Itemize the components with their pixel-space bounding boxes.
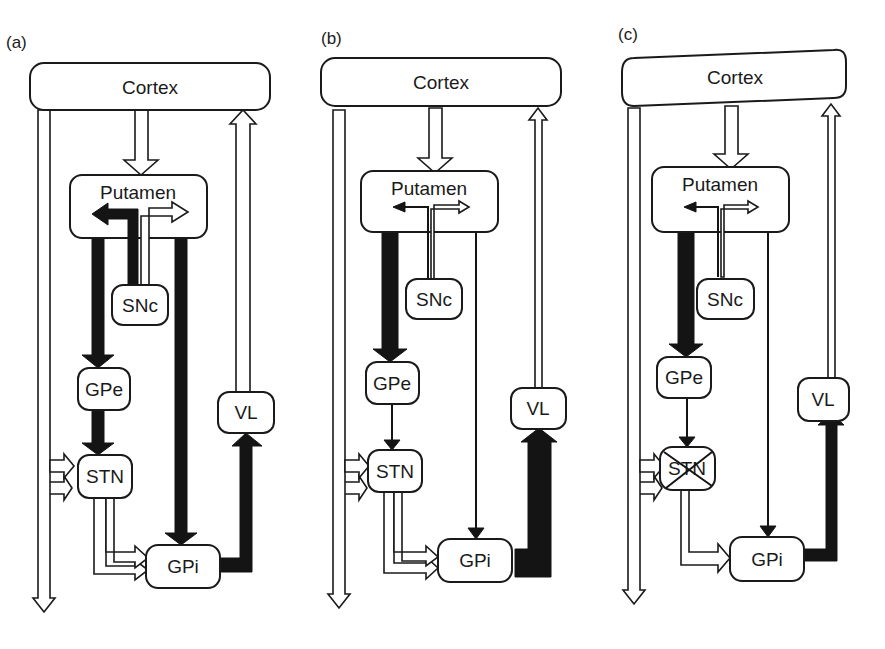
gpe-stn-arrow — [82, 410, 114, 455]
putamen-gpe-arrow — [373, 232, 407, 362]
gpi-label: GPi — [751, 549, 783, 570]
panel-a: (a) Putamen Cortex SNc GP — [6, 33, 274, 612]
gpi-vl-arrow — [220, 433, 262, 572]
stn-gpi-arrow — [681, 489, 730, 572]
vl-label: VL — [234, 402, 257, 423]
panel-label: (b) — [321, 29, 342, 48]
gpe-stn-arrowhead — [679, 437, 695, 447]
vl-cortex-arrow — [230, 110, 256, 392]
putamen-gpe-arrow — [82, 238, 114, 368]
cortex-putamen-arrow — [714, 106, 748, 169]
putamen-label: Putamen — [682, 174, 758, 195]
basal-ganglia-diagram: (a) Putamen Cortex SNc GP — [0, 0, 885, 649]
snc-label: SNc — [707, 289, 743, 310]
hyperdirect-arrow — [345, 454, 369, 478]
cortex-putamen-arrow — [124, 110, 158, 175]
cortex-putamen-arrow — [418, 108, 452, 173]
putamen-label: Putamen — [100, 182, 176, 203]
stn-node-lesioned: STN — [660, 447, 715, 490]
vl-cortex-arrow — [822, 104, 840, 379]
cortex-label: Cortex — [413, 72, 469, 93]
gpi-vl-arrow — [804, 413, 844, 561]
putamen-gpi-arrowhead — [468, 528, 484, 539]
hyperdirect-arrow — [50, 454, 74, 478]
snc-label: SNc — [416, 289, 452, 310]
gpe-label: GPe — [665, 367, 703, 388]
panel-c: (c) Putamen Cortex SNc GPe — [618, 25, 849, 604]
stn-gpi-arrow-2 — [106, 498, 148, 568]
putamen-label: Putamen — [391, 178, 467, 199]
stn-label: STN — [376, 461, 414, 482]
gpi-label: GPi — [167, 556, 199, 577]
snc-label: SNc — [122, 295, 158, 316]
vl-label: VL — [526, 398, 549, 419]
panel-label: (c) — [618, 25, 638, 44]
stn-gpi-arrow-2 — [394, 490, 438, 566]
gpe-label: GPe — [373, 373, 411, 394]
vl-cortex-arrow — [529, 108, 547, 388]
cortex-label: Cortex — [122, 77, 178, 98]
cortex-label: Cortex — [707, 67, 763, 88]
gpi-label: GPi — [459, 550, 491, 571]
panel-b: (b) Putamen Cortex SNc GPe STN — [321, 29, 566, 608]
stn-label: STN — [86, 466, 124, 487]
putamen-gpi-arrowhead — [760, 526, 776, 537]
gpe-label: GPe — [85, 379, 123, 400]
vl-label: VL — [811, 389, 834, 410]
putamen-gpi-arrow — [165, 238, 197, 545]
cortex-output-arrow — [33, 110, 72, 612]
stn-gpi-arrow — [94, 498, 148, 580]
gpi-vl-arrow — [515, 428, 557, 577]
gpe-stn-arrowhead — [384, 440, 400, 450]
stn-gpi-arrow — [384, 490, 438, 579]
panel-label: (a) — [6, 33, 27, 52]
